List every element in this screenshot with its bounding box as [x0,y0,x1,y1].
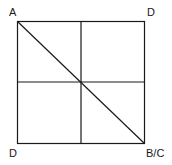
square-diagram [0,0,172,165]
label-top-right: D [147,7,155,18]
label-bottom-right: B/C [146,148,164,159]
label-top-left: A [9,7,16,18]
label-bottom-left: D [9,148,17,159]
